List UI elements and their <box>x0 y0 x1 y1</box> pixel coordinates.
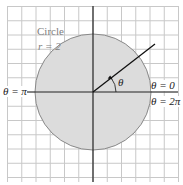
circle-title-label: Circle <box>37 26 64 37</box>
theta-angle-label: θ <box>118 77 123 88</box>
theta-2pi-label: θ = 2π <box>151 96 180 107</box>
circle-radius-label: r = 2 <box>38 41 61 52</box>
theta-pi-label: θ = π <box>3 86 27 97</box>
polar-graph <box>0 0 183 185</box>
theta-zero-label: θ = 0 <box>151 80 175 91</box>
